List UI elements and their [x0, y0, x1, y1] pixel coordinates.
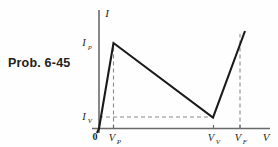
x-tick-peak-voltage-base: V	[109, 132, 117, 143]
x-tick-peak-voltage-sub: P	[116, 138, 122, 146]
x-tick-forward-voltage-base: V	[235, 132, 243, 143]
y-tick-peak-current: I p	[81, 37, 92, 51]
y-tick-valley-current-base: I	[81, 111, 86, 122]
y-tick-peak-current-sub: p	[87, 43, 92, 51]
y-tick-valley-current-sub: V	[88, 117, 93, 125]
x-tick-forward-voltage: V F	[235, 132, 248, 146]
x-tick-valley-voltage-base: V	[208, 132, 216, 143]
x-tick-valley-voltage: V V	[208, 132, 221, 146]
x-tick-forward-voltage-sub: F	[242, 138, 248, 146]
y-tick-peak-current-base: I	[81, 37, 86, 48]
iv-curve	[97, 31, 245, 133]
iv-characteristic-plot: I V 0 I p I V V P V V V F	[0, 0, 278, 147]
y-tick-valley-current: I V	[81, 111, 93, 125]
y-axis-label: I	[104, 7, 110, 19]
x-tick-valley-voltage-sub: V	[216, 138, 221, 146]
x-tick-peak-voltage: V P	[109, 132, 122, 146]
x-axis-label: V	[263, 131, 271, 143]
figure-container: Prob. 6-45 I V 0 I p I V	[0, 0, 278, 147]
origin-label: 0	[93, 131, 98, 142]
